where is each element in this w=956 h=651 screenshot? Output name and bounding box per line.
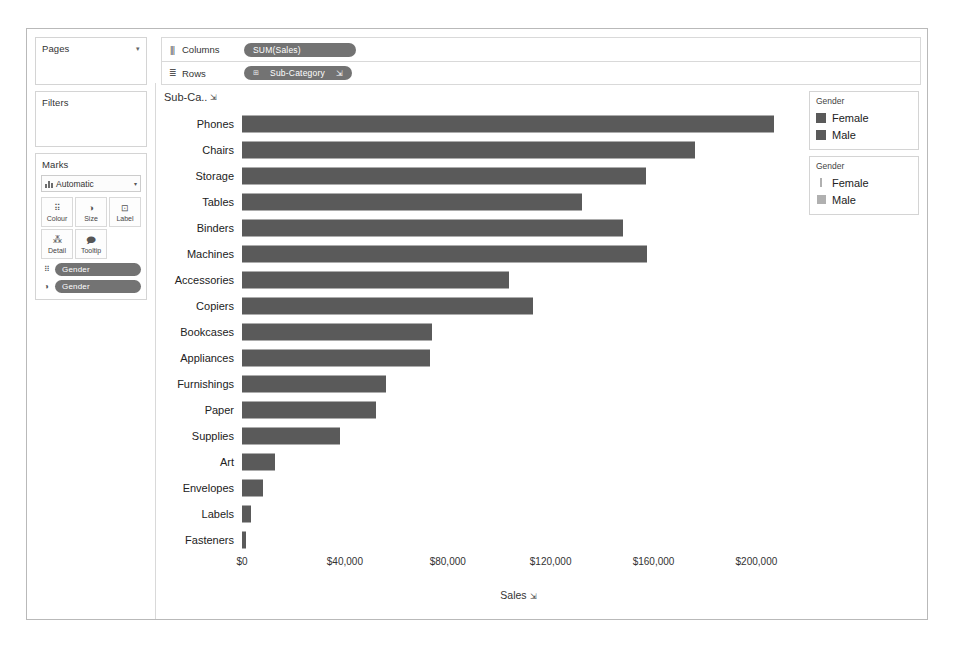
colour-icon: ⠿ [41,266,52,274]
sort-descending-icon[interactable]: ⇲ [530,592,537,601]
bar[interactable] [242,506,251,523]
tooltip-icon: 🗩 [86,235,96,246]
bar-row-label[interactable]: Art [156,456,242,468]
bar-row: Furnishings [156,371,795,397]
bar-track [242,319,795,345]
marks-button-tooltip-label: Tooltip [81,247,101,254]
marks-button-tooltip[interactable]: 🗩 Tooltip [75,229,107,259]
legend-item[interactable]: Female [816,174,912,191]
bar[interactable] [242,142,695,159]
sort-descending-icon[interactable]: ⇲ [336,69,343,78]
chevron-down-icon: ▾ [134,180,137,187]
bar-row: Copiers [156,293,795,319]
columns-pill-text: SUM(Sales) [253,45,301,55]
bar[interactable] [242,324,432,341]
bar-row-label[interactable]: Tables [156,196,242,208]
bar-row-label[interactable]: Binders [156,222,242,234]
bar-row-label[interactable]: Accessories [156,274,242,286]
bar-row-label[interactable]: Labels [156,508,242,520]
marks-button-size-label: Size [84,215,98,222]
bar-row-label[interactable]: Copiers [156,300,242,312]
legend-item[interactable]: Male [816,191,912,208]
filters-card[interactable]: Filters [35,91,147,147]
bar-row-label[interactable]: Appliances [156,352,242,364]
bar-row: Binders [156,215,795,241]
bar[interactable] [242,350,430,367]
marks-button-detail[interactable]: ⁂ Detail [41,229,73,259]
left-sidebar: Pages ▾ Filters Marks Automatic ▾ ⠿ Colo… [27,29,155,619]
colour-swatch-icon [816,130,826,140]
pages-card[interactable]: Pages ▾ [35,37,147,85]
bar[interactable] [242,480,263,497]
bar-track [242,397,795,423]
bar[interactable] [242,220,623,237]
marks-type-dropdown[interactable]: Automatic ▾ [41,175,141,192]
bar[interactable] [242,402,376,419]
marks-pill-colour-gender[interactable]: Gender [55,263,141,276]
bar-row-label[interactable]: Supplies [156,430,242,442]
bar-row-label[interactable]: Envelopes [156,482,242,494]
bar[interactable] [242,376,386,393]
rows-icon: ≣ [162,68,182,78]
columns-shelf[interactable]: ||| Columns SUM(Sales) [161,37,921,61]
bar[interactable] [242,194,582,211]
chevron-down-icon[interactable]: ▾ [136,45,140,52]
bar-row-label[interactable]: Furnishings [156,378,242,390]
rows-pill-sub-category[interactable]: ⊞ Sub-Category ⇲ [244,66,352,80]
marks-button-size[interactable]: ◑ Size [75,197,107,227]
marks-pill-size-gender[interactable]: Gender [55,280,141,293]
columns-icon: ||| [162,45,182,55]
bar-row-label[interactable]: Fasteners [156,534,242,546]
marks-button-detail-label: Detail [48,247,66,254]
x-axis-tick-label: $200,000 [736,556,778,567]
screenshot-root: Pages ▾ Filters Marks Automatic ▾ ⠿ Colo… [0,0,956,651]
size-legend-title: Gender [816,161,912,171]
bar-row: Phones [156,111,795,137]
bar-row: Fasteners [156,527,795,553]
marks-row-spacer [109,229,141,259]
tableau-window: Pages ▾ Filters Marks Automatic ▾ ⠿ Colo… [26,28,928,620]
bar[interactable] [242,116,774,133]
colour-icon: ⠿ [54,203,61,214]
marks-card: Marks Automatic ▾ ⠿ Colour ◑ Size [35,153,147,300]
bar-row-label[interactable]: Storage [156,170,242,182]
bar-row-label[interactable]: Paper [156,404,242,416]
bar-track [242,501,795,527]
bar-track [242,293,795,319]
marks-button-colour-label: Colour [47,215,68,222]
x-axis[interactable]: $0$40,000$80,000$120,000$160,000$200,000 [242,553,795,579]
bar-track [242,189,795,215]
bar-row-label[interactable]: Bookcases [156,326,242,338]
colour-swatch-icon [816,113,826,123]
colour-legend-card[interactable]: Gender Female Male [809,91,919,150]
chart-panel: Sub-Ca.. ⇲ PhonesChairsStorageTablesBind… [155,83,803,619]
bar-row: Supplies [156,423,795,449]
marks-button-colour[interactable]: ⠿ Colour [41,197,73,227]
bar[interactable] [242,298,533,315]
marks-button-label[interactable]: ⊡ Label [109,197,141,227]
bar-track [242,475,795,501]
size-mark-small-icon [816,178,826,187]
size-legend-card[interactable]: Gender Female Male [809,156,919,215]
bar[interactable] [242,272,509,289]
sort-descending-icon[interactable]: ⇲ [210,93,217,102]
marks-buttons-row-1: ⠿ Colour ◑ Size ⊡ Label [41,197,141,227]
columns-pill-sum-sales[interactable]: SUM(Sales) [244,43,356,57]
bar-row-label[interactable]: Chairs [156,144,242,156]
bar[interactable] [242,454,275,471]
bar[interactable] [242,428,340,445]
rows-shelf[interactable]: ≣ Rows ⊞ Sub-Category ⇲ [161,61,921,85]
legend-item[interactable]: Male [816,126,912,143]
bar[interactable] [242,532,246,549]
row-field-header[interactable]: Sub-Ca.. ⇲ [164,91,217,103]
legend-item[interactable]: Female [816,109,912,126]
bar[interactable] [242,246,647,263]
x-axis-title[interactable]: Sales⇲ [242,589,795,601]
bar-row-label[interactable]: Machines [156,248,242,260]
bar-row-label[interactable]: Phones [156,118,242,130]
bar-track [242,137,795,163]
bar-chart-icon [45,180,53,188]
detail-icon: ⁂ [53,235,62,246]
bar-rows: PhonesChairsStorageTablesBindersMachines… [156,111,795,553]
bar[interactable] [242,168,646,185]
